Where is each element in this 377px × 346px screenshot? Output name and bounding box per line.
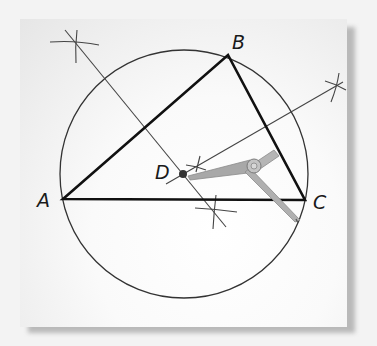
triangle-abc: [63, 55, 305, 200]
label-d: D: [155, 161, 170, 183]
arc-mark-top-left: [50, 30, 99, 63]
point-d: [179, 170, 187, 178]
label-b: B: [232, 31, 245, 53]
circumcircle-construction-figure: A B C D: [0, 0, 377, 346]
arc-mark-right: [325, 73, 346, 102]
label-a: A: [35, 189, 50, 211]
label-c: C: [313, 191, 327, 213]
arc-mark-near-d: [186, 156, 206, 172]
